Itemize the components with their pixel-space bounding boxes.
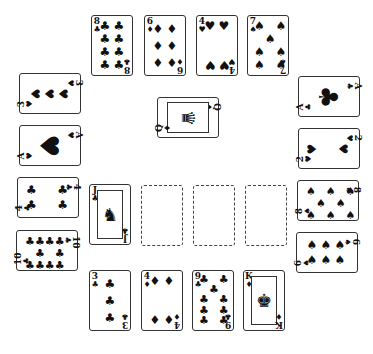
card-7-spades[interactable]: 7♠ ♠♠ ♠ ♠♠ ♠♠ 7♠ <box>247 15 289 76</box>
diamonds-icon: ♦ <box>176 58 184 66</box>
hearts-icon: ♥ <box>338 143 350 154</box>
card-king-diamonds[interactable]: K♦ ♚ K♦ <box>243 270 285 331</box>
empty-slot-1[interactable] <box>141 185 183 246</box>
pip-area: ♣ <box>307 82 349 111</box>
diamonds-icon: ♦ <box>164 275 175 287</box>
clubs-icon: ♣ <box>105 312 116 324</box>
spades-icon: ♠ <box>335 254 346 266</box>
diamonds-icon: ♦ <box>163 124 171 132</box>
pip-area: ♣♣ ♣♣ <box>26 183 68 212</box>
pip-area: ♥ <box>28 131 70 160</box>
spades-icon: ♠ <box>321 239 332 251</box>
clubs-icon: ♣ <box>121 313 129 321</box>
spades-icon: ♠ <box>326 186 336 198</box>
clubs-icon: ♣ <box>322 85 334 108</box>
card-8-clubs[interactable]: 8♣ ♣♣ ♣♣ ♣♣ ♣♣ 8♣ <box>91 15 133 76</box>
clubs-icon: ♣ <box>105 295 116 307</box>
hearts-icon: ♥ <box>43 88 55 99</box>
card-ace-clubs[interactable]: A♣ ♣ A♣ <box>298 76 360 117</box>
card-queen-diamonds[interactable]: Q♦ ♛ Q♦ <box>157 97 219 138</box>
card-6-spades[interactable]: 6♠ ♠♠♠ ♠♠♠ 6♠ <box>296 232 358 273</box>
hearts-icon: ♥ <box>57 88 69 99</box>
spades-icon: ♠ <box>335 239 346 251</box>
pip-area: ♣♣ ♣ ♣♣ ♣♣ ♣♣ <box>199 275 227 326</box>
hearts-icon: ♥ <box>219 20 230 32</box>
pip-area: ♦♦ ♦♦ ♦♦ <box>151 20 179 71</box>
pip-area: ♠♠♠ ♠♠♠ <box>305 238 347 267</box>
card-3-clubs[interactable]: 3♣ ♣ ♣ ♣ 3♣ <box>89 270 131 331</box>
card-10-clubs[interactable]: 10♣ ♣♣♣♣ ♣♣ ♣♣♣♣ 10♣ <box>16 230 78 271</box>
diamonds-icon: ♦ <box>173 313 181 321</box>
pip-area: ♥♥♥ <box>28 79 70 108</box>
pip-area: ♣♣♣♣ ♣♣ ♣♣♣♣ <box>25 236 67 265</box>
clubs-icon: ♣ <box>209 285 219 295</box>
card-8-spades[interactable]: 8♠ ♠♠♠ ♠♠ ♠♠♠ 8♠ <box>297 180 359 221</box>
pip-area: ♠♠♠ ♠♠ ♠♠♠ <box>306 186 348 215</box>
hearts-icon: ♥ <box>228 58 236 66</box>
pip-area: ♣♣ ♣♣ ♣♣ ♣♣ <box>98 20 126 71</box>
empty-slot-2[interactable] <box>193 185 235 246</box>
hearts-icon: ♥ <box>25 152 33 160</box>
diamonds-icon: ♦ <box>153 40 164 52</box>
clubs-icon: ♣ <box>57 184 68 196</box>
clubs-icon: ♣ <box>25 236 35 248</box>
diamonds-icon: ♦ <box>167 40 178 52</box>
spades-icon: ♠ <box>254 59 265 71</box>
spades-icon: ♠ <box>346 186 356 198</box>
hearts-icon: ♥ <box>43 134 55 157</box>
card-3-hearts[interactable]: 3♥ ♥♥♥ 3♥ <box>19 73 81 114</box>
diamonds-icon: ♦ <box>275 313 283 321</box>
hearts-icon: ♥ <box>25 100 33 108</box>
clubs-icon: ♣ <box>224 313 232 321</box>
spades-icon: ♠ <box>321 254 332 266</box>
pip-area: ♠♠ ♠ ♠♠ ♠♠ <box>254 20 282 71</box>
clubs-icon: ♣ <box>22 257 30 265</box>
clubs-icon: ♣ <box>100 20 111 32</box>
spades-icon: ♠ <box>279 58 287 66</box>
card-6-diamonds[interactable]: 6♦ ♦♦ ♦♦ ♦♦ 6♦ <box>144 15 186 76</box>
hearts-icon: ♥ <box>29 88 41 99</box>
diamonds-icon: ♦ <box>153 57 164 69</box>
spades-icon: ♠ <box>306 186 316 198</box>
clubs-icon: ♣ <box>219 275 229 285</box>
card-ace-hearts[interactable]: A♥ ♥ A♥ <box>19 125 81 166</box>
spades-icon: ♠ <box>254 46 265 58</box>
spades-icon: ♠ <box>316 198 326 210</box>
spades-icon: ♠ <box>336 198 346 210</box>
jack-face-icon: ♞ <box>97 190 123 239</box>
pip-area: ♥♥ <box>307 134 349 163</box>
clubs-icon: ♣ <box>35 260 45 272</box>
clubs-icon: ♣ <box>114 20 125 32</box>
card-4-hearts[interactable]: 4♥ ♥♥ ♥♥ 4♥ <box>196 15 238 76</box>
queen-face-icon: ♛ <box>167 102 209 133</box>
spades-icon: ♠ <box>254 20 265 32</box>
clubs-icon: ♣ <box>123 58 131 66</box>
spades-icon: ♠ <box>326 210 336 222</box>
clubs-icon: ♣ <box>100 46 111 58</box>
spades-icon: ♠ <box>346 210 356 222</box>
hearts-icon: ♥ <box>205 59 216 71</box>
card-9-clubs[interactable]: 9♣ ♣♣ ♣ ♣♣ ♣♣ ♣♣ 9♣ <box>192 270 234 331</box>
card-4-diamonds[interactable]: 4♦ ♦♦ ♦♦ 4♦ <box>141 270 183 331</box>
clubs-icon: ♣ <box>55 260 65 272</box>
diamonds-icon: ♦ <box>153 23 164 35</box>
clubs-icon: ♣ <box>304 103 312 111</box>
clubs-icon: ♣ <box>23 204 31 212</box>
clubs-icon: ♣ <box>199 316 209 326</box>
card-2-hearts[interactable]: 2♥ ♥♥ 2♥ <box>298 128 360 169</box>
diamonds-icon: ♦ <box>150 275 161 287</box>
clubs-icon: ♣ <box>105 278 116 290</box>
empty-slot-3[interactable] <box>245 185 287 246</box>
pip-area: ♦♦ ♦♦ <box>148 275 176 326</box>
spades-icon: ♠ <box>302 259 310 267</box>
card-4-clubs[interactable]: 4♣ ♣♣ ♣♣ 4♣ <box>17 177 79 218</box>
king-face-icon: ♚ <box>251 276 277 325</box>
pip-area: ♥♥ ♥♥ <box>203 20 231 71</box>
spades-icon: ♠ <box>276 20 287 32</box>
diamonds-icon: ♦ <box>167 23 178 35</box>
clubs-icon: ♣ <box>100 33 111 45</box>
hearts-icon: ♥ <box>304 155 312 163</box>
spades-icon: ♠ <box>307 239 318 251</box>
clubs-icon: ♣ <box>199 275 209 285</box>
card-jack-clubs[interactable]: J♣ ♞ J♣ <box>89 184 131 245</box>
